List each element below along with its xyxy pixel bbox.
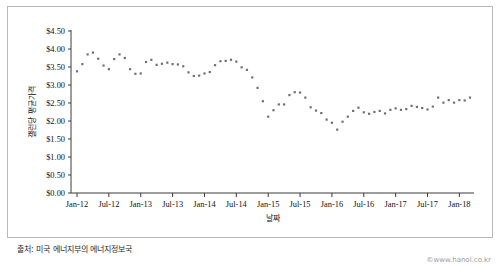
x-axis-tick-labels: Jan-12Jul-12Jan-13Jul-13Jan-14Jul-14Jan-…	[66, 200, 471, 209]
x-axis-ticks	[77, 193, 459, 197]
y-tick-label: $0.00	[46, 189, 65, 198]
x-tick-label: Jan-12	[66, 200, 88, 209]
data-point	[140, 72, 142, 74]
data-point	[357, 107, 359, 109]
x-tick-label: Jan-14	[193, 200, 216, 209]
data-point	[288, 94, 290, 96]
data-point	[76, 70, 78, 72]
x-tick-label: Jul-15	[290, 200, 311, 209]
y-tick-label: $3.50	[46, 63, 65, 72]
chart-figure: $0.00$0.50$1.00$1.50$2.00$2.50$3.00$3.50…	[0, 0, 500, 279]
data-point	[442, 102, 444, 104]
y-tick-label: $4.00	[46, 45, 65, 54]
x-tick-label: Jan-13	[130, 200, 152, 209]
y-tick-label: $0.50	[46, 171, 65, 180]
x-tick-label: Jan-16	[321, 200, 343, 209]
data-point	[432, 106, 434, 108]
data-point	[166, 62, 168, 64]
data-point	[81, 63, 83, 65]
data-point	[395, 107, 397, 109]
data-point	[214, 64, 216, 66]
x-tick-label: Jul-17	[417, 200, 438, 209]
data-point	[331, 122, 333, 124]
data-point	[299, 91, 301, 93]
data-point	[283, 103, 285, 105]
data-point	[102, 64, 104, 66]
data-point	[219, 60, 221, 62]
y-tick-label: $1.00	[46, 153, 65, 162]
x-tick-label: Jul-14	[226, 200, 248, 209]
data-point	[145, 61, 147, 63]
x-tick-label: Jul-16	[353, 200, 374, 209]
y-tick-label: $1.50	[46, 135, 65, 144]
data-point	[410, 105, 412, 107]
data-point	[336, 129, 338, 131]
data-point	[187, 71, 189, 73]
data-point	[87, 53, 89, 55]
data-point-series	[76, 52, 471, 131]
data-point	[113, 58, 115, 60]
y-axis-tick-labels: $0.00$0.50$1.00$1.50$2.00$2.50$3.00$3.50…	[46, 27, 65, 198]
data-point	[437, 97, 439, 99]
data-point	[156, 64, 158, 66]
data-point	[469, 97, 471, 99]
data-point	[251, 76, 253, 78]
data-point	[118, 53, 120, 55]
data-point	[389, 109, 391, 111]
data-point	[379, 110, 381, 112]
watermark: ©www.hanol.co.kr	[426, 256, 491, 264]
data-point	[373, 111, 375, 113]
data-point	[347, 116, 349, 118]
y-tick-label: $3.00	[46, 81, 65, 90]
data-point	[256, 87, 258, 89]
data-point	[384, 112, 386, 114]
data-point	[209, 71, 211, 73]
data-point	[97, 58, 99, 60]
data-point	[352, 110, 354, 112]
x-tick-label: Jan-18	[448, 200, 470, 209]
data-point	[150, 59, 152, 61]
data-point	[368, 113, 370, 115]
data-point	[108, 68, 110, 70]
y-tick-label: $2.50	[46, 99, 65, 108]
data-point	[458, 99, 460, 101]
x-axis-title: 날짜	[266, 213, 281, 223]
data-point	[405, 108, 407, 110]
data-point	[363, 111, 365, 113]
data-point	[134, 73, 136, 75]
data-point	[225, 60, 227, 62]
data-point	[262, 100, 264, 102]
data-point	[464, 99, 466, 101]
data-point	[92, 52, 94, 54]
data-point	[341, 121, 343, 123]
data-point	[171, 63, 173, 65]
data-point	[198, 75, 200, 77]
data-point	[315, 109, 317, 111]
data-point	[267, 116, 269, 118]
data-point	[182, 65, 184, 67]
data-point	[326, 118, 328, 120]
data-point	[161, 63, 163, 65]
data-point	[177, 63, 179, 65]
plot-area-wrapper: $0.00$0.50$1.00$1.50$2.00$2.50$3.00$3.50…	[0, 0, 500, 279]
y-axis-title: 갤런당 평균가격	[27, 86, 37, 138]
data-point	[448, 99, 450, 101]
data-point	[124, 57, 126, 59]
data-point	[453, 102, 455, 104]
data-point	[278, 103, 280, 105]
data-point	[416, 106, 418, 108]
data-point	[426, 108, 428, 110]
data-point	[421, 107, 423, 109]
data-point	[272, 109, 274, 111]
data-point	[129, 68, 131, 70]
x-tick-label: Jul-13	[162, 200, 183, 209]
data-point	[241, 66, 243, 68]
gasoline-price-scatter-chart: $0.00$0.50$1.00$1.50$2.00$2.50$3.00$3.50…	[0, 0, 500, 279]
data-point	[400, 109, 402, 111]
x-tick-label: Jan-15	[257, 200, 279, 209]
y-tick-label: $2.00	[46, 117, 65, 126]
data-point	[320, 112, 322, 114]
data-point	[193, 75, 195, 77]
y-tick-label: $4.50	[46, 27, 65, 36]
data-point	[203, 72, 205, 74]
